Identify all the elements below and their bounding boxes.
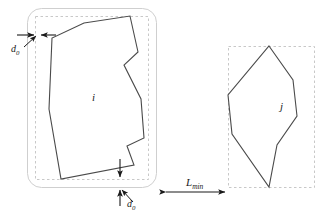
polygon-i-label: i bbox=[92, 92, 95, 103]
clearance-bottom-label: d0 bbox=[127, 199, 135, 212]
clearance-top-leader bbox=[24, 36, 36, 47]
diagram-canvas: i j d0 d0 Lmin bbox=[0, 0, 330, 218]
polygon-j bbox=[228, 46, 297, 187]
separation-label-subscript: min bbox=[192, 182, 203, 191]
polygon-i bbox=[49, 16, 144, 179]
polygon-j-label: j bbox=[280, 101, 283, 112]
clearance-top-label-subscript: 0 bbox=[16, 49, 19, 56]
clearance-top-label: d0 bbox=[11, 44, 19, 57]
separation-label: Lmin bbox=[186, 177, 203, 191]
clearance-bottom-label-subscript: 0 bbox=[132, 204, 135, 211]
